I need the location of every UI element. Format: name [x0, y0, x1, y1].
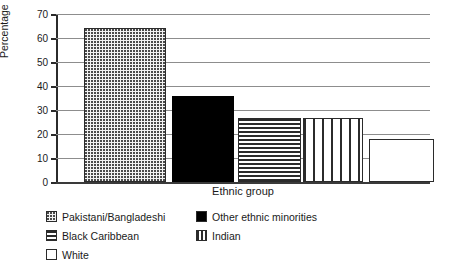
tick-mark-20: [51, 134, 56, 136]
legend-item-black-caribbean: Black Caribbean: [46, 230, 196, 242]
y-tick-label-70: 70: [37, 9, 48, 20]
legend-item-other-ethnic-minorities: Other ethnic minorities: [196, 211, 446, 223]
tick-mark-40: [51, 86, 56, 88]
y-tick-label-0: 0: [43, 177, 48, 188]
y-tick-label-60: 60: [37, 33, 48, 44]
bar-other-ethnic-minorities: [172, 96, 234, 182]
legend-label-black-caribbean: Black Caribbean: [62, 230, 139, 242]
bar-pakistani-bangladeshi: [84, 28, 166, 182]
tick-mark-30: [51, 110, 56, 112]
y-tick-label-10: 10: [37, 153, 48, 164]
y-tick-label-50: 50: [37, 57, 48, 68]
legend-swatch-horizontal-lines-icon: [46, 230, 57, 241]
tick-mark-10: [51, 158, 56, 160]
plot-area: 70 60 50 40 30 20 10: [56, 14, 430, 182]
legend-label-pakistani-bangladeshi: Pakistani/Bangladeshi: [62, 211, 165, 223]
bar-black-caribbean: [238, 118, 301, 182]
bar-chart-figure: Percentage 70 60 50 40 30: [0, 0, 467, 276]
tick-mark-0: [51, 182, 56, 184]
tick-mark-50: [51, 62, 56, 64]
tick-mark-70: [51, 14, 56, 16]
y-tick-label-40: 40: [37, 81, 48, 92]
y-tick-label-20: 20: [37, 129, 48, 140]
legend-swatch-vertical-lines-icon: [196, 230, 207, 241]
legend-item-white: White: [46, 249, 196, 261]
chart-legend: Pakistani/Bangladeshi Other ethnic minor…: [46, 207, 446, 264]
gridline-70: [56, 14, 430, 15]
legend-label-other-ethnic-minorities: Other ethnic minorities: [212, 211, 317, 223]
tick-mark-60: [51, 38, 56, 40]
legend-swatch-solid-black-icon: [196, 211, 207, 222]
legend-label-white: White: [62, 249, 89, 261]
bar-indian: [303, 118, 363, 182]
x-axis-title: Ethnic group: [56, 185, 430, 197]
legend-label-indian: Indian: [212, 230, 241, 242]
y-axis-title: Percentage: [0, 4, 10, 58]
bar-white: [369, 139, 434, 182]
legend-swatch-white-icon: [46, 249, 57, 260]
y-tick-label-30: 30: [37, 105, 48, 116]
legend-item-pakistani-bangladeshi: Pakistani/Bangladeshi: [46, 211, 196, 223]
legend-swatch-dots-icon: [46, 211, 57, 222]
x-axis-line: [56, 182, 430, 184]
legend-item-indian: Indian: [196, 230, 446, 242]
